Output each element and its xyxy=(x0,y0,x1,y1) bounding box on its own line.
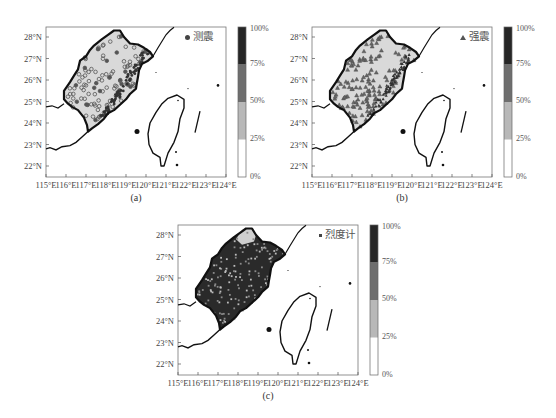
x-tick-label: 115°E xyxy=(167,379,188,388)
y-tick-label: 25°N xyxy=(8,98,42,107)
x-tick-label: 116°E xyxy=(187,379,208,388)
x-tick-label: 119°E xyxy=(115,181,136,190)
x-tick-label: 121°E xyxy=(287,379,308,388)
legend-text: 烈度计 xyxy=(325,228,355,240)
x-tick-label: 120°E xyxy=(267,379,288,388)
y-tick-label: 22°N xyxy=(8,162,42,171)
colorbar-tick-label: 75% xyxy=(382,258,397,266)
colorbar-tick-label: 25% xyxy=(516,135,531,143)
colorbar-tick-label: 50% xyxy=(250,97,265,105)
legend-text: 测震 xyxy=(193,30,213,42)
colorbar-bin xyxy=(370,300,378,338)
figure-caption xyxy=(0,410,556,418)
legend-text: 强震 xyxy=(469,30,489,42)
colorbar-tick-label: 50% xyxy=(516,97,531,105)
map-panel-b: 22°N23°N24°N25°N26°N27°N28°N115°E116°E11… xyxy=(266,0,556,210)
legend: 测震 xyxy=(185,31,213,42)
x-tick-label: 122°E xyxy=(307,379,328,388)
x-tick-label: 123°E xyxy=(461,181,482,190)
y-tick-label: 24°N xyxy=(274,119,308,128)
legend: 烈度计 xyxy=(319,229,355,240)
x-tick-label: 118°E xyxy=(361,181,382,190)
colorbar-bin xyxy=(370,338,378,376)
x-tick-label: 117°E xyxy=(341,181,362,190)
y-tick-label: 28°N xyxy=(8,33,42,42)
x-tick-label: 122°E xyxy=(175,181,196,190)
x-tick-label: 121°E xyxy=(155,181,176,190)
y-tick-label: 24°N xyxy=(140,317,174,326)
colorbar-tick-label: 75% xyxy=(516,60,531,68)
colorbar-tick-label: 100% xyxy=(516,25,535,33)
x-tick-label: 116°E xyxy=(55,181,76,190)
y-tick-label: 26°N xyxy=(140,274,174,283)
y-tick-label: 23°N xyxy=(8,141,42,150)
x-tick-label: 124°E xyxy=(481,181,502,190)
y-tick-label: 26°N xyxy=(8,76,42,85)
colorbar-tick-label: 75% xyxy=(250,60,265,68)
y-tick-label: 22°N xyxy=(274,162,308,171)
colorbar-tick-label: 0% xyxy=(516,173,527,181)
colorbar-bin xyxy=(370,225,378,263)
colorbar-bin xyxy=(504,140,512,178)
colorbar-tick-label: 25% xyxy=(382,333,397,341)
circle-marker-icon xyxy=(185,35,190,40)
colorbar-bin xyxy=(504,102,512,140)
colorbar-bin xyxy=(238,102,246,140)
x-tick-label: 115°E xyxy=(301,181,322,190)
x-tick-label: 119°E xyxy=(247,379,268,388)
triangle-marker-icon xyxy=(460,35,466,40)
map-svg xyxy=(0,0,290,210)
x-tick-label: 121°E xyxy=(421,181,442,190)
x-tick-label: 116°E xyxy=(321,181,342,190)
square-marker-icon xyxy=(319,234,322,237)
map-panel-c: 22°N23°N24°N25°N26°N27°N28°N115°E116°E11… xyxy=(132,198,422,408)
colorbar-tick-label: 100% xyxy=(382,223,401,231)
x-tick-label: 122°E xyxy=(441,181,462,190)
colorbar-bin xyxy=(504,27,512,65)
x-tick-label: 118°E xyxy=(95,181,116,190)
x-tick-label: 117°E xyxy=(207,379,228,388)
x-tick-label: 124°E xyxy=(347,379,368,388)
colorbar-bin xyxy=(504,65,512,103)
map-svg xyxy=(266,0,556,210)
y-tick-label: 28°N xyxy=(140,231,174,240)
y-tick-label: 23°N xyxy=(274,141,308,150)
x-tick-label: 123°E xyxy=(327,379,348,388)
colorbar-bin xyxy=(238,27,246,65)
y-tick-label: 27°N xyxy=(140,253,174,262)
y-tick-label: 26°N xyxy=(274,76,308,85)
y-tick-label: 23°N xyxy=(140,339,174,348)
y-tick-label: 24°N xyxy=(8,119,42,128)
colorbar-bin xyxy=(370,263,378,301)
x-tick-label: 118°E xyxy=(227,379,248,388)
colorbar-bin xyxy=(238,140,246,178)
colorbar-tick-label: 0% xyxy=(382,371,393,379)
y-tick-label: 27°N xyxy=(274,55,308,64)
x-tick-label: 124°E xyxy=(215,181,236,190)
colorbar-tick-label: 0% xyxy=(250,173,261,181)
x-tick-label: 119°E xyxy=(381,181,402,190)
colorbar-bin xyxy=(238,65,246,103)
legend: 强震 xyxy=(460,31,489,42)
y-tick-label: 25°N xyxy=(140,296,174,305)
y-tick-label: 22°N xyxy=(140,360,174,369)
colorbar-tick-label: 25% xyxy=(250,135,265,143)
y-tick-label: 25°N xyxy=(274,98,308,107)
map-panel-a: 22°N23°N24°N25°N26°N27°N28°N115°E116°E11… xyxy=(0,0,280,210)
x-tick-label: 120°E xyxy=(135,181,156,190)
map-svg xyxy=(132,198,422,408)
y-tick-label: 28°N xyxy=(274,33,308,42)
y-tick-label: 27°N xyxy=(8,55,42,64)
x-tick-label: 117°E xyxy=(75,181,96,190)
panel-label: (c) xyxy=(262,390,273,401)
x-tick-label: 123°E xyxy=(195,181,216,190)
x-tick-label: 120°E xyxy=(401,181,422,190)
x-tick-label: 115°E xyxy=(35,181,56,190)
colorbar-tick-label: 50% xyxy=(382,295,397,303)
